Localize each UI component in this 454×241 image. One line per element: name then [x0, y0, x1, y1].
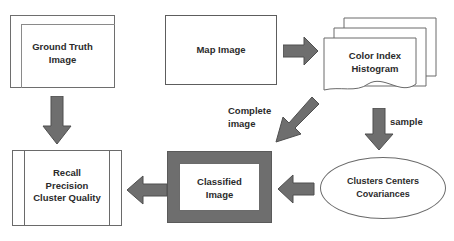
arrow-down-icon [42, 96, 72, 146]
node-evaluation-metrics-label: Recall Precision Cluster Quality [13, 167, 121, 205]
arrow-right-icon [283, 36, 319, 66]
arrow-clusters-to-classified [277, 174, 315, 204]
arrow-left-icon [126, 175, 168, 205]
classified-image-inner-plate [179, 163, 260, 211]
diagram-canvas: Ground Truth Image Map Image Color Index… [0, 0, 454, 241]
node-map-image-label: Map Image [166, 44, 276, 57]
arrow-left-icon [277, 174, 315, 204]
arrow-classified-to-metrics [126, 175, 168, 205]
ground-truth-inner-frame [21, 24, 115, 88]
multiple-documents-icon [322, 14, 442, 102]
arrow-ground-truth-to-metrics [42, 96, 72, 146]
node-color-index-histogram[interactable]: Color Index Histogram [322, 14, 442, 102]
arrow-histogram-to-clusters [364, 108, 394, 152]
metrics-left-bar [24, 151, 25, 225]
metrics-right-bar [109, 151, 110, 225]
node-map-image[interactable]: Map Image [165, 15, 277, 85]
node-clusters-centers-covariances-label: Clusters Centers Covariances [327, 175, 439, 200]
node-clusters-centers-covariances[interactable]: Clusters Centers Covariances [320, 157, 446, 219]
arrow-map-image-to-histogram [283, 36, 319, 66]
edge-label-complete-image: Complete image [228, 105, 286, 130]
node-evaluation-metrics[interactable]: Recall Precision Cluster Quality [12, 150, 122, 226]
node-classified-image[interactable]: Classified Image [167, 151, 272, 223]
edge-label-sample: sample [390, 116, 423, 129]
arrow-down-icon [364, 108, 394, 152]
node-ground-truth-image[interactable]: Ground Truth Image [10, 15, 115, 88]
